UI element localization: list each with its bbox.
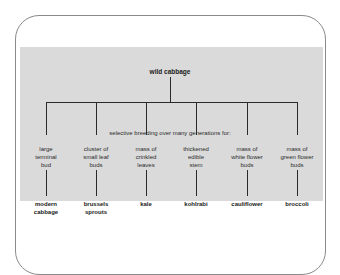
trait-line: stem bbox=[171, 161, 221, 169]
trait-label-1: large terminal bud bbox=[21, 145, 71, 169]
crop-line: cabbage bbox=[21, 208, 71, 216]
trait-line: mass of bbox=[121, 145, 171, 153]
trait-line: cluster of bbox=[71, 145, 121, 153]
process-label: selective breeding over many generations… bbox=[0, 130, 340, 136]
arrow-line-4 bbox=[196, 170, 197, 196]
trait-line: mass of bbox=[222, 145, 272, 153]
trait-line: bud bbox=[21, 161, 71, 169]
crop-label-4: kohlrabi bbox=[171, 200, 221, 208]
arrow-line-5 bbox=[247, 170, 248, 196]
crop-line: modern bbox=[21, 200, 71, 208]
crop-line: kale bbox=[121, 200, 171, 208]
crop-label-1: modern cabbage bbox=[21, 200, 71, 216]
trait-line: crinkled bbox=[121, 153, 171, 161]
trait-line: small leaf bbox=[71, 153, 121, 161]
trait-line: thickened bbox=[171, 145, 221, 153]
trait-line: mass of bbox=[272, 145, 322, 153]
trait-line: buds bbox=[222, 161, 272, 169]
crop-line: kohlrabi bbox=[171, 200, 221, 208]
crop-line: sprouts bbox=[71, 208, 121, 216]
arrow-line-1 bbox=[46, 170, 47, 196]
trait-line: buds bbox=[272, 161, 322, 169]
trait-label-5: mass of white flower buds bbox=[222, 145, 272, 169]
trait-line: white flower bbox=[222, 153, 272, 161]
crop-line: broccoli bbox=[272, 200, 322, 208]
crop-label-2: brussels sprouts bbox=[71, 200, 121, 216]
trait-label-2: cluster of small leaf buds bbox=[71, 145, 121, 169]
branch-bar-line bbox=[46, 102, 298, 103]
trait-line: large bbox=[21, 145, 71, 153]
trait-line: leaves bbox=[121, 161, 171, 169]
crop-line: cauliflower bbox=[222, 200, 272, 208]
trait-line: edible bbox=[171, 153, 221, 161]
trait-label-6: mass of green flower buds bbox=[272, 145, 322, 169]
arrow-line-6 bbox=[297, 170, 298, 196]
trait-line: green flower bbox=[272, 153, 322, 161]
trait-line: terminal bbox=[21, 153, 71, 161]
root-stem-line bbox=[170, 77, 171, 103]
trait-label-3: mass of crinkled leaves bbox=[121, 145, 171, 169]
crop-line: brussels bbox=[71, 200, 121, 208]
trait-label-4: thickened edible stem bbox=[171, 145, 221, 169]
arrow-line-2 bbox=[96, 170, 97, 196]
root-label: wild cabbage bbox=[0, 68, 340, 75]
trait-line: buds bbox=[71, 161, 121, 169]
arrow-line-3 bbox=[146, 170, 147, 196]
crop-label-6: broccoli bbox=[272, 200, 322, 208]
crop-label-3: kale bbox=[121, 200, 171, 208]
crop-label-5: cauliflower bbox=[222, 200, 272, 208]
